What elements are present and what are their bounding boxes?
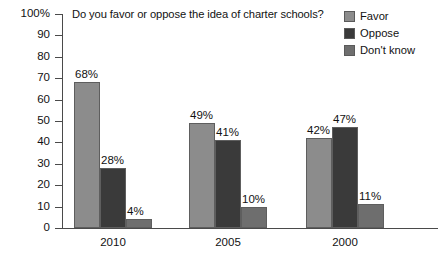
- y-axis-tick: [55, 100, 62, 101]
- bar: [306, 138, 332, 228]
- legend-label-favor: Favor: [360, 10, 389, 23]
- y-axis-tick-label-text: 20: [4, 179, 50, 190]
- bar: [100, 168, 126, 228]
- y-axis-tick: [55, 228, 62, 229]
- chart-legend: Favor Oppose Don't know: [344, 8, 440, 59]
- bar: [358, 204, 384, 228]
- legend-label-oppose: Oppose: [360, 27, 399, 40]
- y-axis-tick-label: 100%: [0, 8, 50, 19]
- bar-value-label: 28%: [101, 154, 124, 166]
- bar-value-label: 42%: [307, 124, 330, 136]
- y-axis-tick-label-text: 0: [4, 222, 50, 233]
- y-axis-tick: [55, 78, 62, 79]
- y-axis-tick-label-text: 80: [4, 51, 50, 62]
- y-axis-tick-label-text: 30: [4, 158, 50, 169]
- y-axis-tick: [55, 14, 62, 15]
- legend-swatch-oppose: [344, 28, 355, 39]
- y-axis-tick-label: 60: [0, 94, 50, 105]
- y-axis-tick: [55, 121, 62, 122]
- bar-value-label: 47%: [333, 113, 356, 125]
- x-axis-category-label: 2005: [198, 236, 258, 249]
- y-axis-tick: [55, 185, 62, 186]
- y-axis-tick-label: 70: [0, 72, 50, 83]
- y-axis-tick-label-text: 60: [4, 94, 50, 105]
- bar: [241, 207, 267, 228]
- x-axis-category-label: 2000: [315, 236, 375, 249]
- y-axis-tick-label: 50: [0, 115, 50, 126]
- bar: [189, 123, 215, 228]
- y-axis-tick-label: 90: [0, 29, 50, 40]
- y-axis-line: [62, 14, 63, 229]
- legend-item-favor: Favor: [344, 8, 440, 25]
- bar-value-label: 41%: [216, 126, 239, 138]
- y-axis-tick-label-text: 70: [4, 72, 50, 83]
- chart-title: Do you favor or oppose the idea of chart…: [72, 8, 324, 21]
- bar: [332, 127, 358, 228]
- legend-swatch-favor: [344, 11, 355, 22]
- x-axis-line: [56, 228, 438, 229]
- bar-value-label: 10%: [242, 193, 265, 205]
- bar: [215, 140, 241, 228]
- bar-value-label: 49%: [190, 109, 213, 121]
- y-axis-tick-label: 0: [0, 222, 50, 233]
- y-axis-tick-label-text: 100%: [4, 8, 50, 19]
- y-axis-tick: [55, 207, 62, 208]
- y-axis-tick-label: 20: [0, 179, 50, 190]
- bar: [126, 219, 152, 228]
- y-axis-tick-label-text: 90: [4, 29, 50, 40]
- bar-chart: Do you favor or oppose the idea of chart…: [0, 0, 440, 262]
- legend-label-dont-know: Don't know: [360, 44, 415, 57]
- y-axis-tick-label-text: 40: [4, 136, 50, 147]
- y-axis-tick: [55, 142, 62, 143]
- y-axis-tick-label: 10: [0, 201, 50, 212]
- y-axis-tick: [55, 57, 62, 58]
- bar-value-label: 11%: [359, 190, 381, 202]
- bar: [74, 82, 100, 228]
- y-axis-tick: [55, 35, 62, 36]
- x-axis-category-label: 2010: [83, 236, 143, 249]
- y-axis-tick-label: 30: [0, 158, 50, 169]
- bar-value-label: 4%: [127, 205, 144, 217]
- y-axis-tick: [55, 164, 62, 165]
- y-axis-tick-label: 40: [0, 136, 50, 147]
- legend-item-dont-know: Don't know: [344, 42, 440, 59]
- legend-item-oppose: Oppose: [344, 25, 440, 42]
- y-axis-tick-label-text: 10: [4, 201, 50, 212]
- bar-value-label: 68%: [75, 68, 98, 80]
- legend-swatch-dont-know: [344, 45, 355, 56]
- y-axis-tick-label: 80: [0, 51, 50, 62]
- y-axis-tick-label-text: 50: [4, 115, 50, 126]
